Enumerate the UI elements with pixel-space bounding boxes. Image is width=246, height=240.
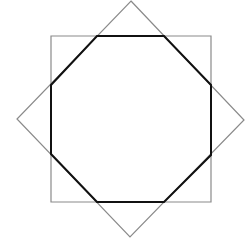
octagon-intersection (51, 36, 211, 202)
geometry-diagram (0, 0, 246, 240)
